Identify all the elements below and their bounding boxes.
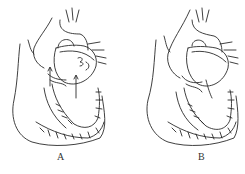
heart-diagram-b: B	[122, 0, 244, 174]
heart-drawing-b	[122, 0, 244, 174]
heart-diagram-a: A	[0, 0, 122, 174]
panel-label-a: A	[57, 151, 64, 162]
panel-label-b: B	[198, 151, 205, 162]
heart-drawing-a	[0, 0, 122, 174]
